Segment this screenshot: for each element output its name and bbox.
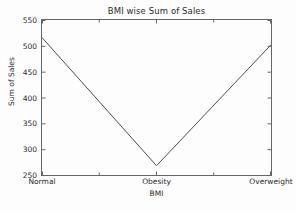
y-axis-tick-label: 350 bbox=[3, 119, 37, 128]
plot-area bbox=[41, 19, 272, 176]
y-axis-tick-label: 300 bbox=[3, 145, 37, 154]
x-axis-ticks bbox=[43, 20, 271, 175]
x-axis-tick-label: Overweight bbox=[231, 177, 296, 186]
y-axis-tick-label: 450 bbox=[3, 67, 37, 76]
x-axis-tick-label: Normal bbox=[2, 177, 82, 186]
x-axis-label: BMI bbox=[41, 189, 272, 198]
y-axis-tick-label: 500 bbox=[3, 41, 37, 50]
y-axis-tick-labels: 250300350400450500550 bbox=[0, 19, 37, 176]
chart-figure: BMI wise Sum of Sales Sum of Sales 25030… bbox=[0, 0, 296, 211]
y-axis-ticks bbox=[42, 21, 271, 176]
data-line-series bbox=[42, 38, 271, 166]
y-axis-tick-label: 550 bbox=[3, 16, 37, 25]
chart-title: BMI wise Sum of Sales bbox=[41, 6, 272, 16]
x-axis-tick-label: Obesity bbox=[117, 177, 197, 186]
y-axis-tick-label: 400 bbox=[3, 93, 37, 102]
plot-svg bbox=[42, 20, 271, 175]
x-axis-tick-labels: NormalObesityOverweight bbox=[41, 177, 272, 189]
